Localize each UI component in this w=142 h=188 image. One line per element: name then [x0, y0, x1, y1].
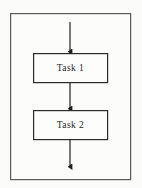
diagram-canvas: Task 1 Task 2	[0, 0, 142, 188]
task-1-label: Task 1	[57, 63, 84, 73]
node-task-1[interactable]: Task 1	[34, 54, 108, 83]
task-2-label: Task 2	[57, 120, 84, 130]
outer-frame	[11, 14, 131, 180]
flowchart-svg: Task 1 Task 2	[0, 0, 142, 188]
node-task-2[interactable]: Task 2	[34, 111, 108, 140]
